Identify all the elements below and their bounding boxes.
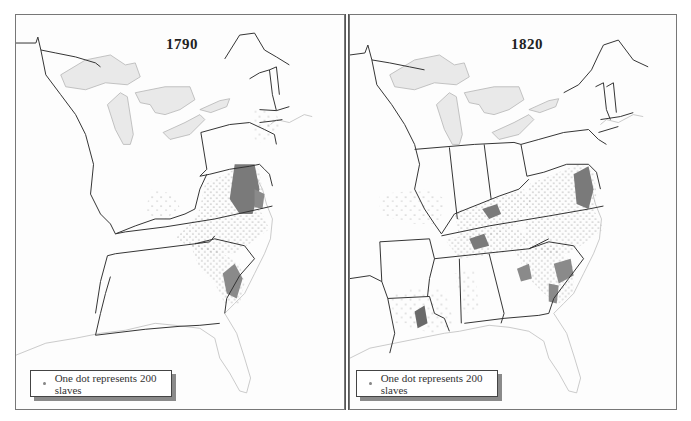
map-panel-1820: 1820 One dot represents 200 slaves [349,14,677,410]
map-1790 [16,15,344,409]
dot-icon [43,382,46,385]
legend-text: One dot represents 200 slaves [55,372,171,396]
legend-text: One dot represents 200 slaves [381,372,497,396]
legend-box-1820: One dot represents 200 slaves [356,370,498,397]
map-panel-1790: 1790 One dot represents 200 slaves [15,14,345,410]
map-title-1820: 1820 [511,36,543,53]
slave-dots-1790 [145,110,282,304]
map-1820 [350,15,676,409]
map-title-1790: 1790 [166,36,198,53]
legend-box-1790: One dot represents 200 slaves [30,370,172,397]
dot-icon [369,382,372,385]
coastline [16,115,312,393]
great-lakes [61,55,230,144]
slave-dots-1820 [380,164,604,333]
